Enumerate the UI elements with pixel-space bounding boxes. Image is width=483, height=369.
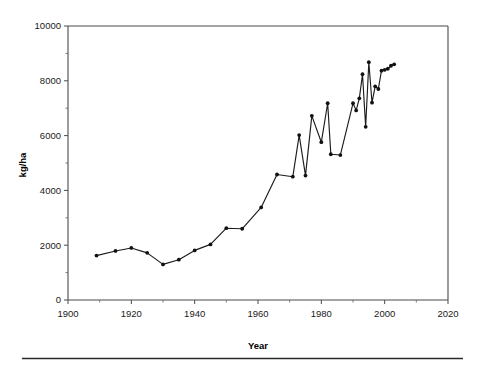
series-data-point — [373, 84, 377, 88]
figure-container: 0200040006000800010000190019201940196019… — [0, 0, 483, 369]
y-axis-title: kg/ha — [17, 152, 28, 178]
x-axis-title: Year — [248, 340, 268, 351]
series-data-point — [193, 249, 197, 253]
series-data-point — [259, 205, 263, 209]
series-data-point — [370, 101, 374, 105]
x-axis-tick-label: 1960 — [247, 308, 268, 319]
series-data-point — [95, 254, 99, 258]
series-data-point — [376, 87, 380, 91]
series-data-point — [129, 246, 133, 250]
series-data-point — [291, 175, 295, 179]
y-axis-tick-label: 6000 — [40, 130, 61, 141]
y-axis-tick-label: 10000 — [35, 20, 61, 31]
line-chart: 0200040006000800010000190019201940196019… — [0, 0, 483, 369]
series-data-point — [209, 242, 213, 246]
y-axis-tick-label: 4000 — [40, 185, 61, 196]
x-axis-tick-label: 2020 — [437, 308, 458, 319]
series-data-point — [364, 125, 368, 129]
series-data-point — [304, 174, 308, 178]
series-data-point — [361, 72, 365, 76]
series-data-point — [326, 101, 330, 105]
series-data-point — [240, 227, 244, 231]
series-data-point — [357, 96, 361, 100]
x-axis-tick-label: 2000 — [374, 308, 395, 319]
ticks-group — [64, 26, 448, 304]
series-data-point — [319, 140, 323, 144]
series-data-point — [354, 108, 358, 112]
series-data-point — [145, 251, 149, 255]
x-axis-tick-label: 1980 — [311, 308, 332, 319]
series-data-point — [161, 262, 165, 266]
series-data-point — [114, 249, 118, 253]
data-series-group — [95, 60, 396, 266]
y-axis-tick-label: 0 — [56, 294, 61, 305]
series-data-point — [367, 60, 371, 64]
series-data-point — [380, 69, 384, 73]
x-axis-tick-label: 1940 — [184, 308, 205, 319]
x-axis-tick-label: 1920 — [121, 308, 142, 319]
series-data-point — [224, 226, 228, 230]
series-data-point — [275, 173, 279, 177]
y-axis-tick-label: 2000 — [40, 240, 61, 251]
series-line-yield — [97, 62, 395, 264]
series-data-point — [338, 153, 342, 157]
series-data-point — [386, 67, 390, 71]
series-data-point — [177, 258, 181, 262]
y-axis-tick-label: 8000 — [40, 75, 61, 86]
series-data-point — [310, 114, 314, 118]
series-data-point — [351, 101, 355, 105]
series-data-point — [329, 152, 333, 156]
x-axis-tick-label: 1900 — [57, 308, 78, 319]
series-data-point — [297, 133, 301, 137]
series-data-point — [392, 62, 396, 66]
